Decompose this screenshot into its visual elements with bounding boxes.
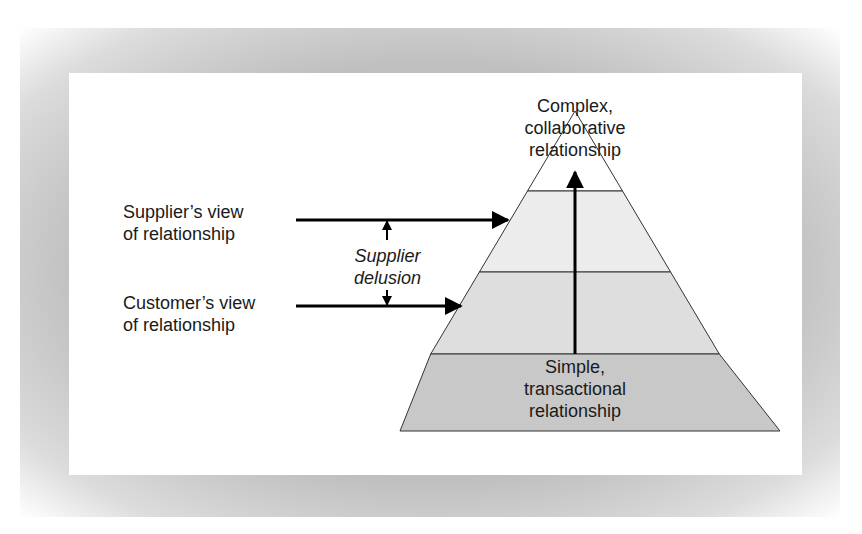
bottom-label: Simple, transactional relationship	[500, 356, 650, 422]
top-label: Complex, collaborative relationship	[500, 95, 650, 161]
supplier-delusion-label: Supplier delusion	[340, 245, 435, 289]
customer-view-label: Customer’s view of relationship	[123, 292, 255, 336]
supplier-view-label: Supplier’s view of relationship	[123, 201, 243, 245]
